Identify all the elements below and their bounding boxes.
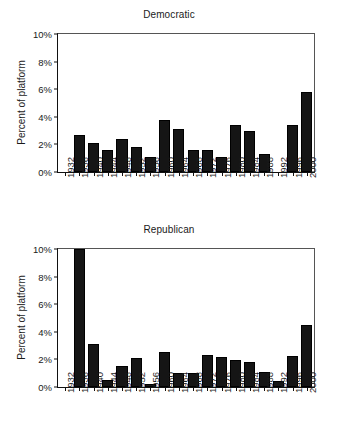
y-axis-label-democratic: Percent of platform bbox=[16, 38, 27, 168]
y-tick-mark bbox=[54, 116, 58, 117]
y-tick-mark bbox=[54, 34, 58, 35]
plot-area-republican: 1932193619401944194819521956196019641968… bbox=[57, 248, 315, 388]
bar-slot: 1952 bbox=[129, 34, 143, 172]
bar bbox=[74, 249, 85, 387]
bar-slot: 1984 bbox=[243, 249, 257, 387]
bar-series-democratic: 1932193619401944194819521956196019641968… bbox=[58, 34, 314, 172]
bar-slot: 1960 bbox=[158, 249, 172, 387]
bar-slot: 1996 bbox=[286, 249, 300, 387]
bar-slot: 1984 bbox=[243, 34, 257, 172]
bar-slot: 1960 bbox=[158, 34, 172, 172]
bar-slot: 1944 bbox=[101, 34, 115, 172]
bar-series-republican: 1932193619401944194819521956196019641968… bbox=[58, 249, 314, 387]
chart-title-republican: Republican bbox=[0, 224, 338, 235]
y-axis-label-republican: Percent of platform bbox=[16, 253, 27, 383]
bar-slot: 1940 bbox=[86, 34, 100, 172]
bar-slot: 1940 bbox=[86, 249, 100, 387]
chart-panel-democratic: Democratic Percent of platform 193219361… bbox=[0, 0, 338, 215]
bar-slot: 1980 bbox=[229, 249, 243, 387]
bar-slot: 1944 bbox=[101, 249, 115, 387]
bar-slot: 1948 bbox=[115, 249, 129, 387]
bar-slot: 1956 bbox=[143, 34, 157, 172]
bar-slot: 2000 bbox=[300, 249, 314, 387]
plot-area-democratic: 1932193619401944194819521956196019641968… bbox=[57, 33, 315, 173]
y-tick-mark bbox=[54, 172, 58, 173]
bar-slot: 1932 bbox=[58, 34, 72, 172]
y-tick-mark bbox=[54, 304, 58, 305]
y-tick-mark bbox=[54, 276, 58, 277]
y-tick-mark bbox=[54, 89, 58, 90]
chart-title-democratic: Democratic bbox=[0, 9, 338, 20]
x-tick-label: 2000 bbox=[307, 157, 318, 178]
y-tick-mark bbox=[54, 61, 58, 62]
figure: Democratic Percent of platform 193219361… bbox=[0, 0, 338, 430]
bar-slot: 2000 bbox=[300, 34, 314, 172]
bar-slot: 1992 bbox=[271, 34, 285, 172]
y-tick-mark bbox=[54, 144, 58, 145]
bar-slot: 1972 bbox=[200, 34, 214, 172]
y-tick-mark bbox=[54, 359, 58, 360]
bar-slot: 1976 bbox=[214, 34, 228, 172]
bar-slot: 1932 bbox=[58, 249, 72, 387]
x-tick-label: 2000 bbox=[307, 372, 318, 393]
bar-slot: 1988 bbox=[257, 34, 271, 172]
bar-slot: 1936 bbox=[72, 34, 86, 172]
bar-slot: 1936 bbox=[72, 249, 86, 387]
bar-slot: 1948 bbox=[115, 34, 129, 172]
y-tick-mark bbox=[54, 387, 58, 388]
bar-slot: 1976 bbox=[214, 249, 228, 387]
bar-slot: 1964 bbox=[172, 249, 186, 387]
bar-slot: 1952 bbox=[129, 249, 143, 387]
bar-slot: 1964 bbox=[172, 34, 186, 172]
y-tick-mark bbox=[54, 249, 58, 250]
bar-slot: 1988 bbox=[257, 249, 271, 387]
bar-slot: 1956 bbox=[143, 249, 157, 387]
chart-panel-republican: Republican Percent of platform 193219361… bbox=[0, 215, 338, 430]
bar-slot: 1980 bbox=[229, 34, 243, 172]
bar-slot: 1968 bbox=[186, 249, 200, 387]
bar-slot: 1992 bbox=[271, 249, 285, 387]
bar-slot: 1972 bbox=[200, 249, 214, 387]
y-tick-mark bbox=[54, 331, 58, 332]
bar-slot: 1996 bbox=[286, 34, 300, 172]
bar-slot: 1968 bbox=[186, 34, 200, 172]
